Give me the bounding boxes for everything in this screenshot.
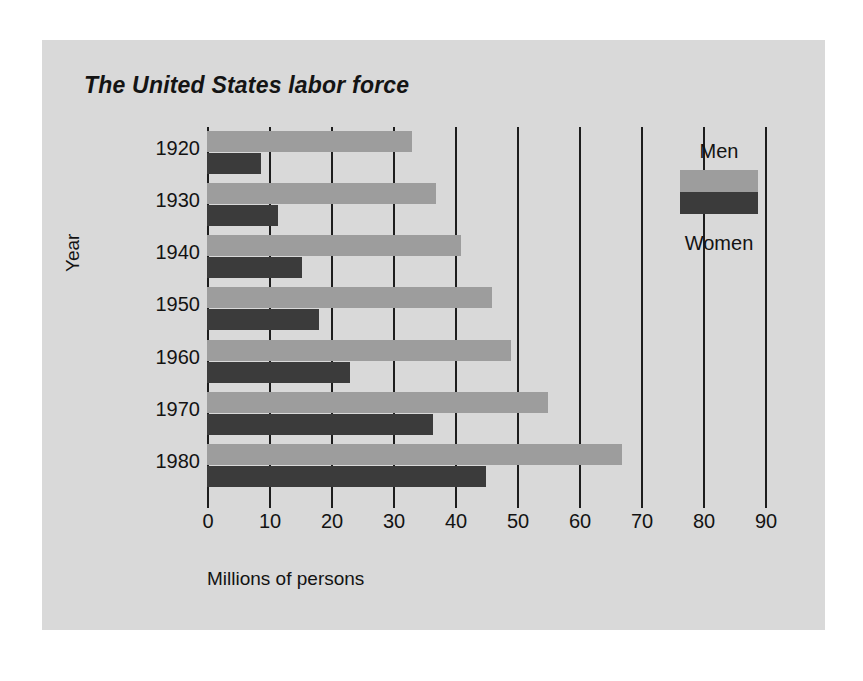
x-axis-tick-label: 10 (250, 510, 290, 533)
legend-swatch-women (680, 192, 758, 214)
bar-women-1930 (207, 205, 278, 226)
x-axis-tick-label: 70 (622, 510, 662, 533)
bar-men-1920 (207, 131, 412, 152)
x-axis-tick-label: 40 (436, 510, 476, 533)
x-axis-title: Millions of persons (207, 568, 364, 590)
bar-group (207, 392, 765, 444)
x-axis-tick (703, 492, 705, 508)
y-axis-title: Year (62, 234, 84, 272)
bar-women-1940 (207, 257, 302, 278)
bar-women-1970 (207, 414, 433, 435)
y-axis-tick-label: 1970 (130, 398, 200, 421)
bar-men-1970 (207, 392, 548, 413)
y-axis-tick-label: 1940 (130, 241, 200, 264)
x-axis-tick (641, 492, 643, 508)
bar-men-1960 (207, 340, 511, 361)
chart-panel: The United States labor force Year 19201… (42, 40, 825, 630)
x-axis-tick-label: 90 (746, 510, 786, 533)
x-axis-tick (765, 492, 767, 508)
bar-women-1950 (207, 309, 319, 330)
x-axis-tick (579, 492, 581, 508)
x-axis-tick-label: 50 (498, 510, 538, 533)
bar-men-1930 (207, 183, 436, 204)
bar-men-1950 (207, 287, 492, 308)
x-axis-tick-label: 30 (374, 510, 414, 533)
legend-label-men: Men (654, 140, 784, 163)
y-axis-tick-label: 1960 (130, 346, 200, 369)
chart-title: The United States labor force (84, 72, 409, 99)
y-axis-tick-label: 1980 (130, 450, 200, 473)
x-axis-tick (269, 492, 271, 508)
x-axis-tick (517, 492, 519, 508)
bar-group (207, 287, 765, 339)
y-axis-tick-labels: 1920193019401950196019701980 (122, 127, 200, 492)
bar-group (207, 444, 765, 496)
x-axis-tick (393, 492, 395, 508)
x-axis-ticks (207, 492, 765, 508)
bar-women-1960 (207, 362, 350, 383)
x-axis-tick-label: 80 (684, 510, 724, 533)
bar-group (207, 340, 765, 392)
y-axis-tick-label: 1930 (130, 189, 200, 212)
x-axis-tick-label: 60 (560, 510, 600, 533)
bar-women-1980 (207, 466, 486, 487)
y-axis-tick-label: 1950 (130, 293, 200, 316)
x-axis-tick-label: 0 (188, 510, 228, 533)
y-axis-tick-label: 1920 (130, 137, 200, 160)
x-axis-tick (455, 492, 457, 508)
legend-swatch-men (680, 170, 758, 192)
x-axis-tick (331, 492, 333, 508)
bar-women-1920 (207, 153, 261, 174)
legend-label-women: Women (654, 232, 784, 255)
x-axis-tick (207, 492, 209, 508)
bar-men-1940 (207, 235, 461, 256)
x-axis-tick-label: 20 (312, 510, 352, 533)
bar-men-1980 (207, 444, 622, 465)
chart-legend: Men Women (654, 140, 784, 260)
x-axis-tick-labels: 0102030405060708090 (207, 510, 765, 538)
